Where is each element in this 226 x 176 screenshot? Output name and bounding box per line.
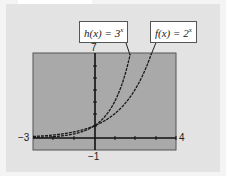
x-min-label: −3 [18,132,29,143]
x-max-label: 4 [179,132,185,143]
h-label-text: h(x) = 3 [84,27,120,39]
f-label-exp: x [189,26,192,34]
h-label-exp: x [120,26,123,34]
y-min-label: −1 [88,151,99,162]
f-label-text: f(x) = 2 [155,27,189,39]
y-max-label: 7 [91,42,97,53]
h-label: h(x) = 3x [79,21,128,43]
f-label: f(x) = 2x [150,21,197,43]
